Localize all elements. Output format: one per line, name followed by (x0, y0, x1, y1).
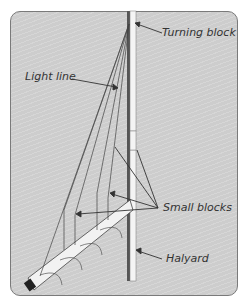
label-halyard: Halyard (166, 252, 209, 265)
label-light-line: Light line (25, 70, 76, 83)
label-turning-block: Turning block (162, 26, 236, 39)
label-small-blocks: Small blocks (163, 201, 232, 214)
